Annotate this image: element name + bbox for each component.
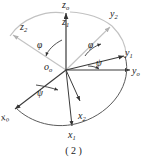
axis-label-z2: z2 bbox=[20, 22, 27, 34]
angle-label-psi-right: ψ bbox=[96, 59, 102, 69]
angle-label-psi-left: ψ bbox=[37, 89, 43, 99]
axis-label-z1: z1 bbox=[62, 17, 69, 29]
angle-label-phi-right: φ bbox=[88, 41, 93, 51]
angle-label-phi-left: φ bbox=[37, 41, 42, 51]
figure-container: zo z1 z2 y2 y1 yo xo x1 x2 oo φ φ ψ ψ ( … bbox=[0, 0, 147, 166]
axis-x1 bbox=[66, 70, 72, 126]
arc-y2-to-y1 bbox=[112, 26, 126, 55]
figure-caption: ( 2 ) bbox=[0, 145, 147, 156]
arc-y1-to-x0 bbox=[16, 56, 127, 126]
axis-label-y1: y1 bbox=[125, 48, 133, 60]
axis-label-y0: yo bbox=[132, 66, 140, 78]
axis-label-x2: x2 bbox=[78, 111, 86, 123]
axis-label-x1: x1 bbox=[68, 130, 76, 142]
axis-label-z0: zo bbox=[62, 0, 69, 12]
angle-arc-phi-left bbox=[46, 40, 62, 56]
axis-y1 bbox=[66, 56, 124, 70]
axis-label-y2: y2 bbox=[110, 9, 118, 21]
arc-z0-to-y2 bbox=[70, 12, 112, 26]
origin-label: oo bbox=[44, 62, 52, 74]
arc-z2-to-z0 bbox=[10, 12, 64, 36]
